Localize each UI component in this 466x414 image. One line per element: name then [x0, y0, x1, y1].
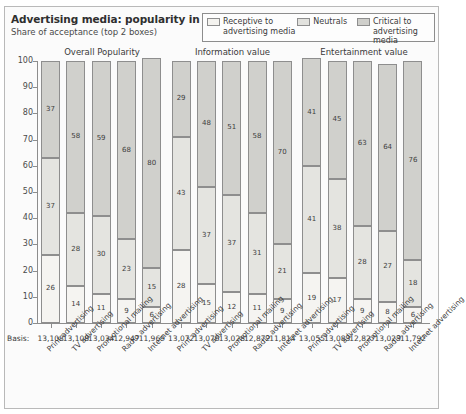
- bar-segment-value: 68: [122, 147, 131, 154]
- basis-label: Basis:: [7, 334, 29, 343]
- x-axis-tick-mark: [181, 324, 182, 328]
- stacked-bar[interactable]: 284329: [172, 61, 191, 323]
- bar-segment-value: 23: [122, 266, 131, 273]
- bar-segment-value: 45: [333, 116, 342, 123]
- bar-segment-value: 30: [97, 251, 106, 258]
- bar-segment-neutral[interactable]: 37: [41, 158, 60, 255]
- y-axis-tick-label: 70: [13, 135, 33, 144]
- bar-segment-neutral[interactable]: 30: [92, 216, 111, 295]
- y-axis-labels: 0102030405060708090100: [11, 61, 33, 323]
- bar-segment-value: 26: [46, 285, 55, 292]
- bar-segment-neutral[interactable]: 38: [328, 179, 347, 279]
- title-block: Advertising media: popularity in % Share…: [11, 13, 201, 37]
- bar-segment-neutral[interactable]: 37: [222, 195, 241, 292]
- bar-segment-neutral[interactable]: 43: [172, 137, 191, 250]
- bar-segment-value: 63: [358, 140, 367, 147]
- stacked-bar[interactable]: 61580: [142, 61, 161, 323]
- bar-segment-critical[interactable]: 64: [378, 64, 397, 232]
- stacked-bar[interactable]: 113059: [92, 61, 111, 323]
- stacked-bar[interactable]: 153748: [197, 61, 216, 323]
- y-axis-tick-label: 80: [13, 108, 33, 117]
- bar-segment-value: 37: [202, 232, 211, 239]
- legend: Receptive to advertising media Neutrals …: [202, 13, 435, 42]
- legend-label-neutrals-line1: Neutrals: [313, 17, 347, 26]
- bar-segment-value: 58: [71, 133, 80, 140]
- bar-segment-value: 64: [383, 144, 392, 151]
- legend-item-critical: Critical to advertising media: [357, 17, 430, 46]
- bar-segment-value: 15: [147, 284, 156, 291]
- bar-segment-value: 41: [307, 109, 316, 116]
- bar-segment-neutral[interactable]: 28: [66, 213, 85, 286]
- stacked-bar[interactable]: 92170: [273, 61, 292, 323]
- stacked-bar[interactable]: 82764: [378, 61, 397, 323]
- bar-segment-value: 38: [333, 225, 342, 232]
- x-axis-tick-mark: [51, 324, 52, 328]
- bar-segment-value: 19: [307, 295, 316, 302]
- bar-segment-critical[interactable]: 63: [353, 61, 372, 226]
- bar-segment-critical[interactable]: 45: [328, 61, 347, 179]
- bar-segment-critical[interactable]: 58: [248, 61, 267, 213]
- bar-segment-critical[interactable]: 48: [197, 61, 216, 187]
- bar-segment-value: 27: [383, 263, 392, 270]
- panel-title-0: Overall Popularity: [37, 47, 167, 57]
- y-axis-tick-label: 20: [13, 266, 33, 275]
- stacked-bar[interactable]: 92368: [117, 61, 136, 323]
- y-axis-line: [37, 61, 38, 324]
- bar-segment-critical[interactable]: 59: [92, 61, 111, 216]
- page-subtitle: Share of acceptance (top 2 boxes): [11, 27, 201, 37]
- axes: 0102030405060708090100 26373714285811305…: [11, 61, 430, 337]
- y-axis-tick-label: 0: [13, 318, 33, 327]
- legend-label-critical-line2: advertising media: [373, 27, 430, 46]
- bar-segment-critical[interactable]: 51: [222, 61, 241, 195]
- bar-segment-neutral[interactable]: 21: [273, 244, 292, 299]
- y-axis-tick-label: 50: [13, 187, 33, 196]
- bar-segment-value: 58: [253, 133, 262, 140]
- bar-segment-value: 70: [278, 149, 287, 156]
- bar-segment-value: 59: [97, 135, 106, 142]
- bar-segment-value: 51: [227, 124, 236, 131]
- bar-segment-neutral[interactable]: 37: [197, 187, 216, 284]
- panel-title-2: Entertainment value: [298, 47, 430, 57]
- bar-segment-critical[interactable]: 76: [403, 61, 422, 260]
- bar-segment-neutral[interactable]: 31: [248, 213, 267, 294]
- legend-label-critical-line1: Critical to: [373, 17, 412, 26]
- bar-segment-critical[interactable]: 68: [117, 61, 136, 239]
- stacked-bar[interactable]: 61876: [403, 61, 422, 323]
- y-axis-tick-label: 40: [13, 213, 33, 222]
- bar-segment-value: 29: [177, 95, 186, 102]
- stacked-bar[interactable]: 263737: [41, 61, 60, 323]
- x-axis-category-labels: Print advertisingTV advertisingPromotion…: [0, 347, 443, 414]
- bar-segment-value: 14: [71, 301, 80, 308]
- bar-segment-critical[interactable]: 58: [66, 61, 85, 213]
- legend-swatch-receptive-icon: [207, 18, 220, 26]
- legend-label-receptive-line1: Receptive to: [223, 17, 273, 26]
- bar-segment-value: 18: [408, 280, 417, 287]
- bar-segment-neutral[interactable]: 23: [117, 239, 136, 299]
- legend-label-neutrals: Neutrals: [313, 17, 347, 27]
- bar-segment-receptive[interactable]: 26: [41, 255, 60, 323]
- stacked-bar[interactable]: 113158: [248, 61, 267, 323]
- y-axis-tick-label: 90: [13, 82, 33, 91]
- stacked-bar[interactable]: 123751: [222, 61, 241, 323]
- bar-segment-neutral[interactable]: 28: [353, 226, 372, 299]
- bar-segment-critical[interactable]: 29: [172, 61, 191, 137]
- bar-segment-value: 28: [358, 259, 367, 266]
- bar-segment-critical[interactable]: 80: [142, 58, 161, 268]
- bar-segment-value: 31: [253, 250, 262, 257]
- legend-label-receptive: Receptive to advertising media: [223, 17, 295, 36]
- stacked-bar[interactable]: 142858: [66, 61, 85, 323]
- bar-segment-value: 37: [46, 203, 55, 210]
- bar-segment-neutral[interactable]: 27: [378, 231, 397, 302]
- y-axis-tick-label: 60: [13, 161, 33, 170]
- bar-segment-value: 80: [147, 160, 156, 167]
- bar-segment-critical[interactable]: 37: [41, 61, 60, 158]
- bar-segment-value: 41: [307, 216, 316, 223]
- bar-segment-critical[interactable]: 41: [302, 58, 321, 165]
- stacked-bar[interactable]: 92863: [353, 61, 372, 323]
- bar-segment-critical[interactable]: 70: [273, 61, 292, 244]
- stacked-bar[interactable]: 173845: [328, 61, 347, 323]
- stacked-bar[interactable]: 194141: [302, 61, 321, 323]
- bar-segment-neutral[interactable]: 41: [302, 166, 321, 273]
- legend-item-neutrals: Neutrals: [297, 17, 357, 27]
- bar-segment-value: 28: [177, 283, 186, 290]
